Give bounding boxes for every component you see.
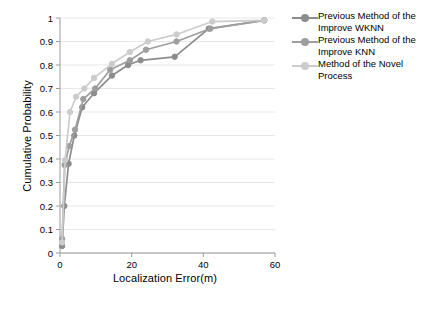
series-line-1 <box>62 20 264 246</box>
series-point-3 <box>145 39 150 44</box>
series-point-1 <box>109 73 114 78</box>
series-point-2 <box>174 39 179 44</box>
y-tick-label: 0 <box>48 248 53 259</box>
series-point-3 <box>91 75 96 80</box>
y-tick-label: 0.9 <box>40 36 53 47</box>
x-tick-label: 20 <box>126 259 137 270</box>
series-point-3 <box>174 32 179 37</box>
legend-label: Previous Method of the Improve WKNN <box>318 10 429 33</box>
series-point-3 <box>127 49 132 54</box>
y-tick-label: 0.8 <box>40 60 53 71</box>
y-tick-label: 0.4 <box>40 154 53 165</box>
y-tick-label: 0.3 <box>40 177 53 188</box>
series-point-2 <box>92 86 97 91</box>
x-tick-label: 40 <box>198 259 209 270</box>
y-axis-title: Cumulative Probability <box>21 46 33 226</box>
legend-label: Previous Method of the Improve KNN <box>318 34 429 57</box>
series-point-3 <box>109 61 114 66</box>
series-point-3 <box>62 157 67 162</box>
series-point-3 <box>262 18 267 23</box>
line-chart-svg: 00.10.20.30.40.50.60.70.80.910204060 <box>0 0 290 311</box>
series-point-2 <box>127 58 132 63</box>
y-tick-label: 0.7 <box>40 83 53 94</box>
series-point-2 <box>72 127 77 132</box>
y-tick-label: 0.2 <box>40 201 53 212</box>
series-point-1 <box>138 58 143 63</box>
chart-legend: Previous Method of the Improve WKNNPrevi… <box>292 10 429 82</box>
y-tick-label: 0.1 <box>40 224 53 235</box>
series-point-3 <box>59 240 64 245</box>
y-tick-label: 0.5 <box>40 130 53 141</box>
x-tick-label: 0 <box>57 259 62 270</box>
series-point-3 <box>82 86 87 91</box>
series-point-2 <box>81 96 86 101</box>
chart-figure: 00.10.20.30.40.50.60.70.80.910204060 Loc… <box>0 0 429 311</box>
series-point-2 <box>107 67 112 72</box>
series-point-3 <box>67 109 72 114</box>
legend-marker-icon <box>292 11 318 25</box>
series-line-3 <box>62 20 264 242</box>
y-tick-label: 1 <box>48 13 53 24</box>
x-tick-label: 60 <box>270 259 281 270</box>
legend-marker-icon <box>292 35 318 49</box>
y-tick-label: 0.6 <box>40 107 53 118</box>
series-point-2 <box>143 47 148 52</box>
series-point-3 <box>73 94 78 99</box>
legend-entry-1: Previous Method of the Improve WKNN <box>292 10 429 33</box>
legend-marker-icon <box>292 59 318 73</box>
chart-plot-area: 00.10.20.30.40.50.60.70.80.910204060 Loc… <box>0 0 290 311</box>
legend-entry-3: Method of the Novel Process <box>292 58 429 81</box>
legend-label: Method of the Novel Process <box>318 58 429 81</box>
series-point-2 <box>208 26 213 31</box>
legend-entry-2: Previous Method of the Improve KNN <box>292 34 429 57</box>
series-point-3 <box>210 19 215 24</box>
x-axis-title: Localization Error(m) <box>60 272 270 284</box>
series-point-1 <box>172 54 177 59</box>
